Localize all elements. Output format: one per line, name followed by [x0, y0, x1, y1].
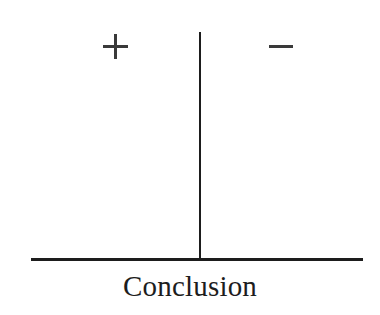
minus-horizontal-stroke — [269, 45, 293, 48]
figure-canvas: Conclusion — [0, 0, 380, 315]
vertical-divider-line — [199, 32, 201, 259]
minus-sign-icon — [269, 45, 293, 48]
axis-caption-label: Conclusion — [0, 268, 380, 304]
plus-vertical-stroke — [114, 34, 117, 59]
plus-sign-icon — [103, 34, 128, 59]
baseline-axis-line — [31, 258, 363, 261]
